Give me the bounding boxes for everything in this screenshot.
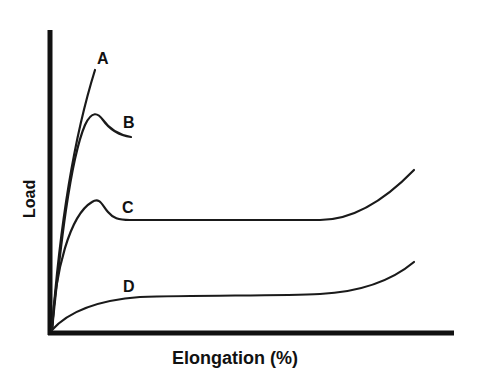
curve-label-c: C [122,199,134,216]
x-axis-label: Elongation (%) [172,348,298,368]
curve-d [52,262,414,330]
curve-a [52,70,95,330]
curve-label-a: A [97,50,109,67]
chart: A B C D Elongation (%) Load [0,0,478,385]
curve-b [52,114,131,330]
y-axis-label: Load [21,180,38,218]
curve-label-d: D [123,278,135,295]
curve-c [52,170,414,330]
curve-label-b: B [123,114,135,131]
